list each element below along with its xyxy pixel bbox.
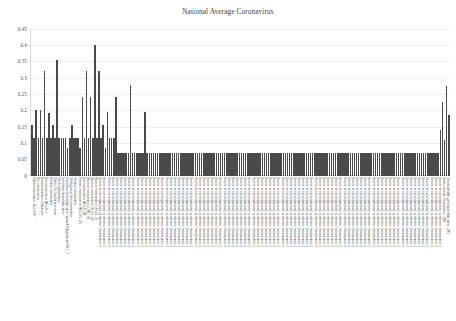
y-tick-label: 0.05 bbox=[18, 156, 27, 162]
plot-area bbox=[30, 29, 450, 176]
chart-root: National Average Coronavirus 00.050.10.1… bbox=[0, 0, 456, 321]
bar-series bbox=[30, 29, 450, 176]
chart-title: National Average Coronavirus bbox=[0, 8, 456, 16]
y-tick-label: 0.3 bbox=[20, 75, 27, 81]
y-tick-label: 0.1 bbox=[20, 140, 27, 146]
y-tick-label: 0.25 bbox=[18, 91, 27, 97]
y-tick-label: 0.35 bbox=[18, 58, 27, 64]
x-axis-labels: Alphacoronavirus Bat-CoVBat coronavirusB… bbox=[30, 177, 450, 319]
y-tick-label: 0.15 bbox=[18, 124, 27, 130]
y-tick-label: 0.45 bbox=[18, 26, 27, 32]
y-axis-ticks: 00.050.10.150.20.250.30.350.40.45 bbox=[0, 29, 30, 176]
bar-slot bbox=[448, 29, 450, 176]
y-tick-label: 0 bbox=[24, 173, 27, 179]
x-tick-label: Transmissible gastroenteritis virus_293 bbox=[445, 177, 449, 234]
x-label-slot: Transmissible gastroenteritis virus_293 bbox=[445, 177, 449, 319]
y-tick-label: 0.2 bbox=[20, 107, 27, 113]
bar[interactable] bbox=[448, 115, 450, 175]
y-tick-label: 0.4 bbox=[20, 42, 27, 48]
